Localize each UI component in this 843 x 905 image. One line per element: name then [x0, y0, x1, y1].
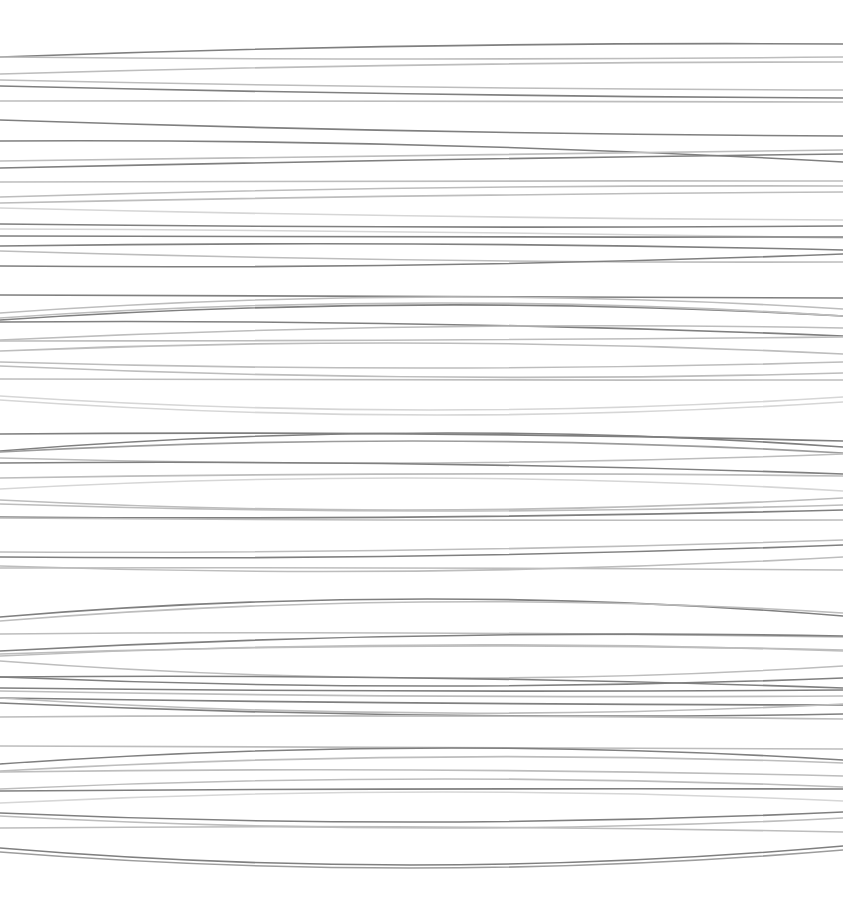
abstract-line-artwork [0, 0, 843, 905]
